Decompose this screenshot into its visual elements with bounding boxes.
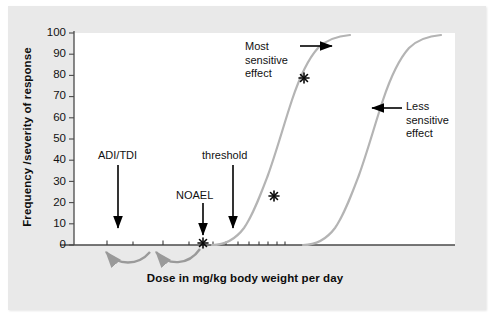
y-tick-60: 60 — [40, 112, 66, 123]
y-tick-100: 100 — [40, 27, 66, 38]
annotation-threshold: threshold — [202, 149, 247, 163]
annotation-noael: NOAEL — [176, 189, 213, 203]
annotation-less-sensitive: Less sensitive effect — [406, 100, 462, 141]
y-tick-70: 70 — [40, 90, 66, 101]
dose-response-figure: 100 90 80 70 60 50 40 30 20 10 0 Frequen… — [0, 0, 494, 331]
annotation-adi-tdi: ADI/TDI — [98, 149, 137, 163]
y-axis-title: Frequency /severity of response — [21, 27, 33, 247]
y-tick-10: 10 — [40, 218, 66, 229]
y-tick-0: 0 — [40, 239, 66, 250]
y-tick-80: 80 — [40, 69, 66, 80]
y-tick-90: 90 — [40, 48, 66, 59]
annotation-most-sensitive: Most sensitive effect — [245, 40, 299, 81]
y-tick-30: 30 — [40, 176, 66, 187]
y-tick-40: 40 — [40, 154, 66, 165]
y-tick-20: 20 — [40, 197, 66, 208]
y-tick-50: 50 — [40, 133, 66, 144]
x-axis-title: Dose in mg/kg body weight per day — [140, 272, 350, 284]
